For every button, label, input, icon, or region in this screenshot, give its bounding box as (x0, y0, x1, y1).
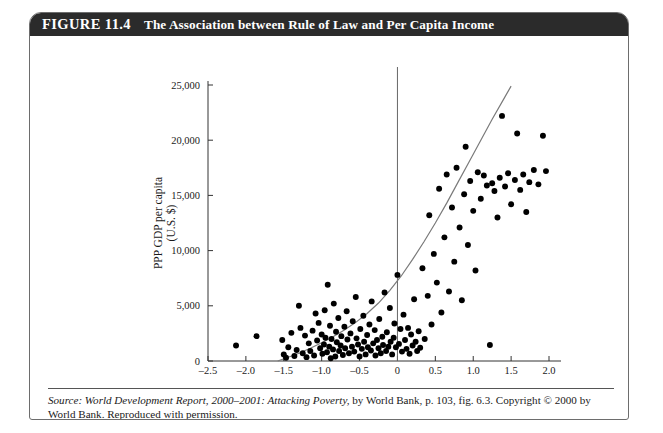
fit-curve (278, 86, 511, 361)
axes-layer (208, 81, 561, 361)
scatter-point (391, 321, 397, 327)
scatter-point (497, 175, 503, 181)
scatter-point (489, 180, 495, 186)
scatter-point (333, 329, 339, 335)
scatter-point (508, 201, 514, 207)
x-tick-label: 0.5 (429, 365, 442, 376)
x-tick-label: 2.0 (542, 365, 555, 376)
scatter-point (372, 327, 378, 333)
x-tick-label: 1.5 (505, 365, 518, 376)
scatter-point (465, 242, 471, 248)
scatter-point (351, 349, 357, 355)
scatter-point (283, 355, 289, 361)
scatter-point (394, 272, 400, 278)
scatter-point (431, 251, 437, 257)
scatter-point (288, 330, 294, 336)
scatter-point (338, 333, 344, 339)
scatter-point (323, 335, 329, 341)
scatter-point (350, 318, 356, 324)
scatter-point (389, 351, 395, 357)
scatter-point (499, 113, 505, 119)
scatter-point (411, 296, 417, 302)
scatter-point (495, 215, 501, 221)
scatter-point (425, 293, 431, 299)
scatter-point (313, 311, 319, 317)
y-tick-label: 10,000 (171, 245, 200, 256)
scatter-point (405, 325, 411, 331)
scatter-point (517, 187, 523, 193)
scatter-point (451, 259, 457, 265)
scatter-point (380, 342, 386, 348)
y-tick-label: 15,000 (171, 190, 200, 201)
scatter-point (357, 354, 363, 360)
scatter-point (373, 353, 379, 359)
scatter-point (473, 268, 479, 274)
scatter-point (254, 333, 260, 339)
scatter-point (329, 336, 335, 342)
scatter-point (459, 297, 465, 303)
scatter-point (478, 196, 484, 202)
scatter-point (441, 234, 447, 240)
source-divider (48, 388, 614, 389)
scatter-point (342, 345, 348, 351)
scatter-point (331, 301, 337, 307)
scatter-plot-svg: 05,00010,00015,00020,00025,000–2.5–2.0–1… (30, 36, 629, 376)
scatter-point (502, 184, 508, 190)
scatter-point (535, 181, 541, 187)
scatter-point (348, 330, 354, 336)
scatter-point (422, 336, 428, 342)
scatter-point (520, 171, 526, 177)
scatter-point (416, 328, 422, 334)
scatter-point (322, 307, 328, 313)
y-tick-label: 5,000 (176, 300, 200, 311)
scatter-point (325, 282, 331, 288)
scatter-point (419, 265, 425, 271)
scatter-point (294, 347, 300, 353)
scatter-point (311, 353, 317, 359)
scatter-point (346, 350, 352, 356)
scatter-point (444, 171, 450, 177)
scatter-point (463, 144, 469, 150)
scatter-point (417, 345, 423, 351)
scatter-point (446, 288, 452, 294)
scatter-point (408, 332, 414, 338)
figure-title-bar: FIGURE 11.4 The Association between Rule… (30, 13, 629, 36)
scatter-point (396, 341, 402, 347)
scatter-point (369, 298, 375, 304)
scatter-point (540, 133, 546, 139)
scatter-point (512, 177, 518, 183)
scatter-point (340, 352, 346, 358)
source-title: World Development Report, 2000–2001: Att… (82, 394, 349, 406)
scatter-point (306, 340, 312, 346)
scatter-point (438, 309, 444, 315)
scatter-point (407, 351, 413, 357)
scatter-point (481, 173, 487, 179)
axis-ticks-layer: 05,00010,00015,00020,00025,000–2.5–2.0–1… (171, 80, 555, 376)
scatter-point (296, 303, 302, 309)
x-tick-label: –0.5 (349, 365, 368, 376)
scatter-point (470, 208, 476, 214)
scatter-point (449, 205, 455, 211)
y-tick-label: 20,000 (171, 135, 200, 146)
scatter-point (344, 308, 350, 314)
exponential-fit-curve (278, 86, 511, 361)
scatter-point (487, 342, 493, 348)
source-note: Source: World Development Report, 2000–2… (48, 394, 618, 420)
scatter-point (467, 178, 473, 184)
scatter-point (285, 344, 291, 350)
scatter-point (363, 351, 369, 357)
x-tick-label: –1.0 (311, 365, 330, 376)
figure-title-text: The Association between Rule of Law and … (144, 17, 494, 33)
scatter-point (357, 326, 363, 332)
scatter-point (457, 224, 463, 230)
scatter-point (404, 346, 410, 352)
scatter-point (366, 322, 372, 328)
scatter-point (429, 322, 435, 328)
scatter-point (316, 320, 322, 326)
scatter-point (314, 338, 320, 344)
scatter-point (279, 337, 285, 343)
figure-container: FIGURE 11.4 The Association between Rule… (29, 12, 629, 420)
scatter-point (341, 324, 347, 330)
scatter-point (335, 315, 341, 321)
y-axis-title-line2: (U.S. $) (165, 204, 178, 241)
